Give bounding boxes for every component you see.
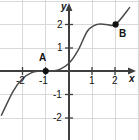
x-tick-label--1: -1 xyxy=(39,76,48,86)
graph-figure: -2 -1 1 2 2 1 -1 -2 y x A B xyxy=(0,0,139,140)
point-label-a: A xyxy=(39,53,46,63)
x-axis xyxy=(0,67,136,75)
y-tick-label--2: -2 xyxy=(53,113,62,123)
point-label-b: B xyxy=(119,29,126,39)
x-tick-label-2: 2 xyxy=(112,76,118,86)
y-tick-label-1: 1 xyxy=(57,43,63,53)
x-tick-label-1: 1 xyxy=(89,76,95,86)
x-axis-label: x xyxy=(129,74,135,84)
y-tick-label-2: 2 xyxy=(57,20,63,30)
curve-path xyxy=(1,8,129,116)
y-axis-label: y xyxy=(61,2,67,12)
coordinate-plane xyxy=(0,0,139,140)
y-tick-label--1: -1 xyxy=(53,90,62,100)
data-point-a[interactable] xyxy=(43,68,49,74)
x-tick-label--2: -2 xyxy=(16,76,25,86)
data-point-b[interactable] xyxy=(113,21,119,27)
